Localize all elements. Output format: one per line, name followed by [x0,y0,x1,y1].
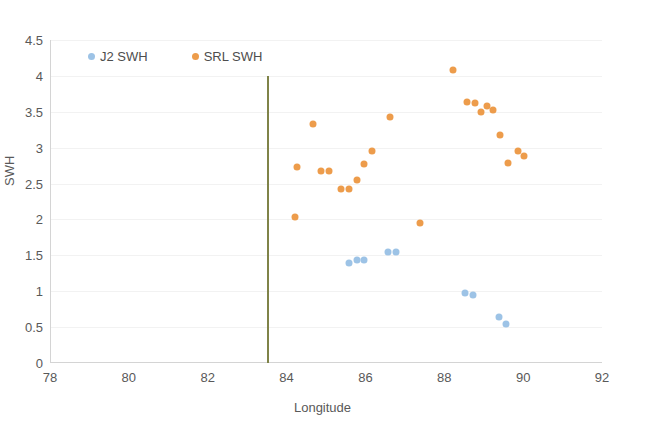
data-point [294,164,301,171]
data-point [471,100,478,107]
caption-strip [0,424,645,438]
x-tick-label: 88 [414,370,474,385]
data-point [325,167,332,174]
plot-area [50,40,602,363]
chart-legend: J2 SWHSRL SWH [88,49,262,64]
x-tick-label: 82 [178,370,238,385]
x-tick-label: 80 [99,370,159,385]
data-point [463,99,470,106]
data-point [345,186,352,193]
data-point [503,320,510,327]
data-point [361,257,368,264]
x-tick-label: 90 [493,370,553,385]
data-point [345,259,352,266]
data-point [337,186,344,193]
legend-entry: SRL SWH [192,49,263,64]
legend-marker-icon [88,53,95,60]
data-point [489,107,496,114]
y-tick-label: 1 [3,284,43,299]
x-tick-label: 84 [257,370,317,385]
scatter-chart: 00.511.522.533.544.5 7880828486889092 J2… [0,0,645,438]
legend-marker-icon [192,53,199,60]
gridline [51,40,602,41]
legend-entry: J2 SWH [88,49,148,64]
data-point [497,131,504,138]
y-tick-label: 0.5 [3,320,43,335]
legend-label: J2 SWH [100,49,148,64]
y-axis-title: SWH [2,156,17,186]
x-tick-label: 92 [572,370,632,385]
gridline [51,112,602,113]
y-tick-label: 3 [3,140,43,155]
data-point [416,220,423,227]
gridline [51,184,602,185]
data-point [369,148,376,155]
gridline [51,255,602,256]
data-point [385,248,392,255]
data-point [292,214,299,221]
data-point [462,290,469,297]
data-point [393,248,400,255]
data-point [387,113,394,120]
x-tick-label: 78 [20,370,80,385]
data-point [361,161,368,168]
vertical-reference-line [267,76,269,363]
y-tick-label: 1.5 [3,248,43,263]
y-tick-label: 4.5 [3,33,43,48]
y-tick-label: 2 [3,212,43,227]
gridline [51,291,602,292]
data-point [469,291,476,298]
gridline [51,327,602,328]
data-point [521,153,528,160]
gridline [51,76,602,77]
data-point [353,257,360,264]
data-point [318,167,325,174]
y-tick-label: 4 [3,68,43,83]
legend-label: SRL SWH [204,49,263,64]
data-point [450,67,457,74]
gridline [51,219,602,220]
data-point [310,120,317,127]
x-tick-label: 86 [335,370,395,385]
y-tick-label: 3.5 [3,104,43,119]
data-point [477,108,484,115]
x-axis-title: Longitude [0,400,645,415]
data-point [353,176,360,183]
data-point [495,314,502,321]
data-point [505,160,512,167]
y-tick-label: 0 [3,356,43,371]
